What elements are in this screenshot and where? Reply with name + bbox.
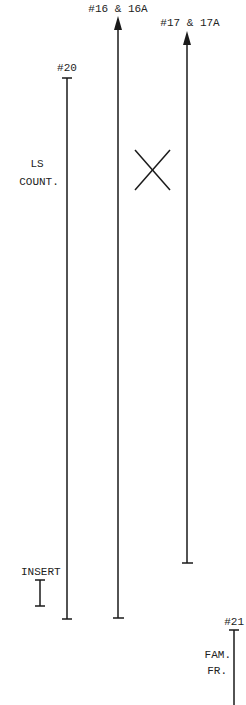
label-line-16: #16 & 16A <box>88 3 147 16</box>
label-line-21: #21 <box>224 616 244 629</box>
label-fam: FAM. <box>205 649 231 662</box>
insert-bracket <box>35 580 45 606</box>
line-16 <box>113 26 124 618</box>
label-line-17: #17 & 17A <box>160 17 219 30</box>
label-line-20: #20 <box>57 62 77 75</box>
arrowhead-17-icon <box>183 31 191 45</box>
label-ls: LS <box>30 158 43 171</box>
line-21 <box>229 630 239 705</box>
label-insert: INSERT <box>21 566 61 579</box>
label-count: COUNT. <box>19 176 59 189</box>
cross-mark-icon <box>135 150 170 190</box>
diagram-canvas: #16 & 16A #17 & 17A #20 LS COUNT. INSERT… <box>0 0 246 705</box>
diagram-svg <box>0 0 246 705</box>
line-17 <box>182 41 193 563</box>
line-20 <box>62 78 72 619</box>
arrowhead-16-icon <box>114 16 122 30</box>
label-fr: FR. <box>207 665 227 678</box>
